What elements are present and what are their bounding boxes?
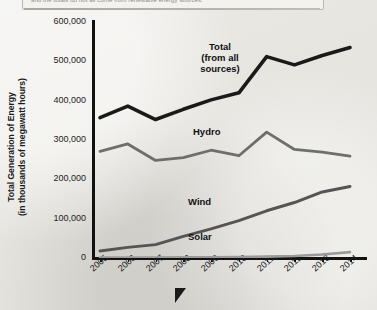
y-axis-title-line1: Total Generation of Energy [6,92,16,202]
y-axis-tick-label: 200,000 [30,173,86,183]
series-line-solar [100,252,350,258]
series-label-solar: Solar [188,231,212,242]
y-axis-tick-label: 100,000 [30,213,86,223]
series-label-wind: Wind [188,196,211,207]
y-axis-title-line2: (in thousands of megawatt hours) [17,40,28,254]
page-marker-triangle-icon [175,288,186,303]
y-axis-title: Total Generation of Energy (in thousands… [6,40,26,254]
series-label-total-line3: sources) [200,63,240,74]
series-label-total-line2: (from all [201,52,238,63]
series-label-hydro: Hydro [193,126,220,137]
y-axis-tick-label: 0 [30,252,86,262]
line-chart: Total Generation of Energy (in thousands… [0,0,377,310]
series-label-total-line1: Total [209,41,231,52]
y-axis-tick-label: 500,000 [30,55,86,65]
series-line-hydro [100,132,350,160]
series-line-wind [100,186,350,251]
series-label-total: Total (from all sources) [186,41,254,74]
y-axis-tick-label: 600,000 [30,16,86,26]
y-axis-tick-label: 400,000 [30,95,86,105]
y-axis-tick-label: 300,000 [30,134,86,144]
y-axis-tick-labels: 600,000500,000400,000300,000200,000100,0… [30,0,86,310]
